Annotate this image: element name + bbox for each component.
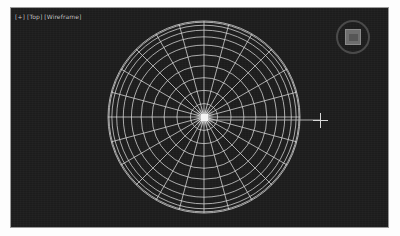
viewport-label[interactable]: [+] [Top] [Wireframe] (15, 13, 81, 20)
view-cube-icon[interactable] (345, 29, 361, 45)
wireframe-sphere (11, 8, 388, 227)
crosshair-cursor-icon (313, 113, 328, 128)
view-cube-top-face[interactable] (349, 34, 358, 41)
viewport-top-wireframe[interactable]: [+] [Top] [Wireframe] (11, 8, 388, 227)
selection-pivot-marker[interactable] (201, 114, 208, 121)
cursor-vertical-bar (320, 113, 321, 128)
nav-gizmo[interactable] (336, 20, 370, 54)
application-window: [+] [Top] [Wireframe] (0, 0, 400, 236)
